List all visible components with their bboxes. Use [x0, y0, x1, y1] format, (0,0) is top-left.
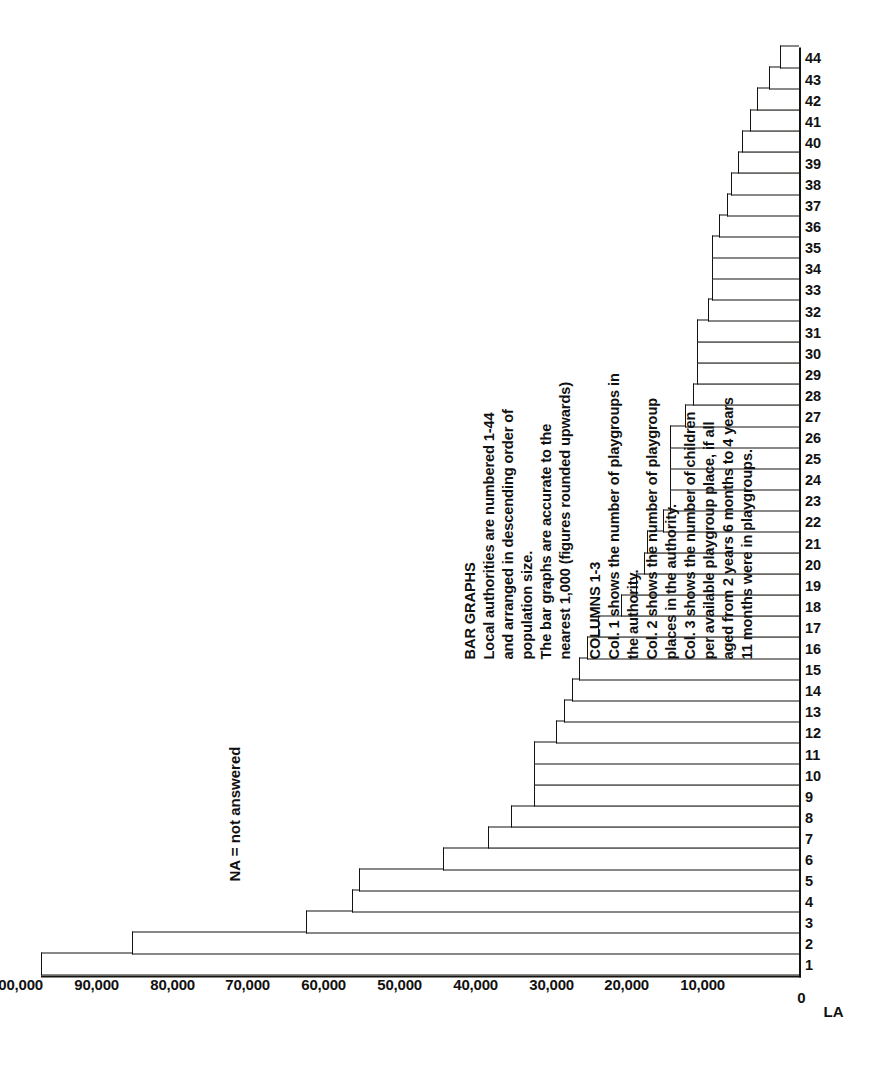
x-tick-label: 8	[801, 806, 865, 827]
y-tick-label: 0	[797, 988, 805, 1005]
x-tick-label: 9	[801, 785, 865, 806]
x-tick-label: 25	[801, 448, 865, 469]
x-tick-label: 34	[801, 258, 865, 279]
bar	[712, 277, 799, 300]
bar	[719, 214, 799, 237]
bar	[306, 910, 799, 933]
bar	[572, 678, 799, 701]
notes-line: aged from 2 years 6 months to 4 years	[719, 329, 738, 659]
x-tick-label: 44	[801, 47, 865, 68]
bar	[579, 657, 799, 680]
x-tick-label: 19	[801, 574, 865, 595]
x-tick-label: 1	[801, 954, 865, 975]
x-tick-label: 32	[801, 300, 865, 321]
notes-line: 11 months were in playgroups.	[738, 329, 757, 659]
x-tick-label: 12	[801, 722, 865, 743]
x-tick-label: 41	[801, 110, 865, 131]
notes-line: Local authorities are numbered 1-44	[480, 329, 499, 659]
bar	[769, 66, 799, 89]
notes-line: per available playgroup place, if all	[700, 329, 719, 659]
y-tick-label: 10,000	[681, 976, 726, 993]
bar	[132, 931, 799, 954]
x-axis-labels: 1234567891011121314151617181920212223242…	[801, 47, 865, 975]
y-tick-label: 50,000	[377, 976, 422, 993]
chart-stage: 010,00020,00030,00040,00050,00060,00070,…	[25, 30, 855, 1039]
notes-line: The bar graphs are accurate to the	[537, 329, 556, 659]
notes-lines-columns: Col. 1 shows the number of playgroups in…	[605, 329, 757, 659]
y-tick-label: 100,000	[0, 976, 43, 993]
x-tick-label: 38	[801, 173, 865, 194]
x-tick-label: 10	[801, 764, 865, 785]
x-tick-label: 22	[801, 511, 865, 532]
x-tick-label: 14	[801, 680, 865, 701]
bar	[534, 762, 799, 785]
notes-lines-bar-graphs: Local authorities are numbered 1-44and a…	[480, 329, 575, 659]
y-tick-label: 40,000	[453, 976, 498, 993]
bar	[708, 298, 799, 321]
bar	[712, 256, 799, 279]
x-tick-label: 2	[801, 933, 865, 954]
x-tick-label: 35	[801, 237, 865, 258]
x-tick-label: 26	[801, 427, 865, 448]
notes-line: Col. 2 shows the number of playgroup	[643, 329, 662, 659]
x-tick-label: 37	[801, 195, 865, 216]
y-tick-label: 80,000	[150, 976, 195, 993]
notes-line: Col. 1 shows the number of playgroups in	[605, 329, 624, 659]
notes-line: and arranged in descending order of	[499, 329, 518, 659]
notes-line: Col. 3 shows the number of children	[681, 329, 700, 659]
bar	[556, 720, 799, 743]
notes-line: population size.	[518, 329, 537, 659]
x-tick-label: 29	[801, 363, 865, 384]
x-tick-label: 3	[801, 912, 865, 933]
x-tick-label: 36	[801, 216, 865, 237]
bar	[534, 741, 799, 764]
x-tick-label: 30	[801, 342, 865, 363]
x-tick-label: 21	[801, 532, 865, 553]
la-axis-label: LA	[824, 1003, 844, 1020]
y-tick-label: 20,000	[605, 976, 650, 993]
bar	[738, 151, 799, 174]
x-tick-label: 17	[801, 616, 865, 637]
bar	[41, 952, 799, 975]
x-tick-label: 11	[801, 743, 865, 764]
y-tick-label: 60,000	[302, 976, 347, 993]
bar	[757, 87, 799, 110]
bar	[534, 784, 799, 807]
x-tick-label: 6	[801, 848, 865, 869]
bar	[712, 235, 799, 258]
x-tick-label: 40	[801, 131, 865, 152]
notes-line: nearest 1,000 (figures rounded upwards)	[556, 329, 575, 659]
bar	[742, 130, 799, 153]
x-tick-label: 42	[801, 89, 865, 110]
figure-page: 010,00020,00030,00040,00050,00060,00070,…	[0, 0, 880, 1069]
y-tick-label: 30,000	[529, 976, 574, 993]
bar	[780, 45, 799, 68]
x-tick-label: 33	[801, 279, 865, 300]
na-note: NA = not answered	[226, 746, 243, 881]
bar	[750, 109, 799, 132]
plot-area: 010,00020,00030,00040,00050,00060,00070,…	[41, 47, 801, 977]
bar	[352, 889, 799, 912]
bar	[511, 805, 799, 828]
x-tick-label: 15	[801, 659, 865, 680]
x-tick-label: 5	[801, 870, 865, 891]
notes-line: places in the authority.	[662, 329, 681, 659]
x-tick-label: 28	[801, 384, 865, 405]
x-tick-label: 18	[801, 595, 865, 616]
bar	[564, 699, 799, 722]
x-tick-label: 43	[801, 68, 865, 89]
x-tick-label: 20	[801, 553, 865, 574]
bar	[488, 826, 799, 849]
bar	[731, 172, 799, 195]
x-tick-label: 23	[801, 490, 865, 511]
x-tick-label: 4	[801, 891, 865, 912]
x-tick-label: 13	[801, 701, 865, 722]
notes-heading-bar-graphs: BAR GRAPHS	[461, 329, 480, 659]
x-tick-label: 24	[801, 469, 865, 490]
x-tick-label: 27	[801, 405, 865, 426]
bar	[359, 868, 799, 891]
notes-block: BAR GRAPHS Local authorities are numbere…	[461, 329, 757, 659]
y-tick-label: 70,000	[226, 976, 271, 993]
bar	[727, 193, 799, 216]
notes-heading-columns: COLUMNS 1-3	[586, 329, 605, 659]
